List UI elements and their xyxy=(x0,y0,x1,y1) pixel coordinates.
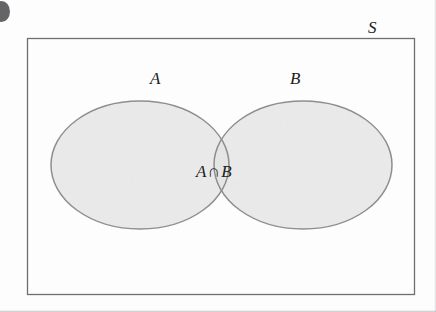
set-a-label: A xyxy=(150,70,160,87)
intersection-operator-icon: ∩ xyxy=(207,162,222,181)
universal-set-label: S xyxy=(368,19,377,36)
intersection-label: A∩B xyxy=(196,163,232,180)
venn-diagram-canvas xyxy=(0,0,436,312)
set-b-label: B xyxy=(290,70,300,87)
intersection-label-operand-left: A xyxy=(196,162,207,181)
intersection-label-operand-right: B xyxy=(221,162,232,181)
venn-diagram-figure: S A B A∩B xyxy=(0,0,436,312)
